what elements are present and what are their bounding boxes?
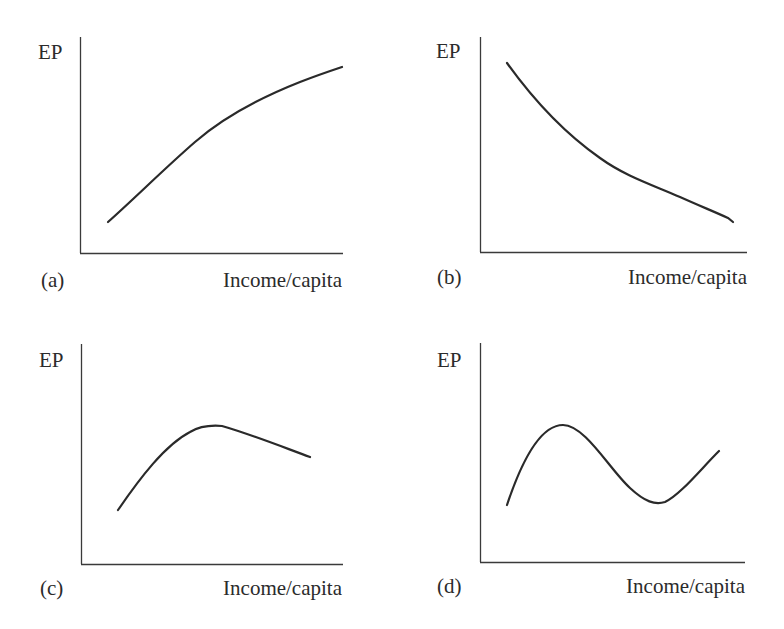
panel-a-axes	[80, 37, 343, 254]
panel-a-xlabel: Income/capita	[180, 270, 342, 291]
figure-canvas	[0, 0, 784, 629]
panel-a-ylabel: EP	[38, 42, 63, 63]
panel-d-axes	[480, 343, 745, 563]
panel-c-tag: (c)	[40, 578, 63, 599]
panel-b-ylabel: EP	[436, 41, 461, 62]
panel-a-curve	[108, 67, 342, 222]
panel-c-ylabel: EP	[39, 350, 64, 371]
panel-d-tag: (d)	[437, 576, 462, 597]
panel-a-tag: (a)	[41, 270, 64, 291]
panel-b-curve	[507, 63, 733, 222]
panel-b-xlabel: Income/capita	[582, 267, 747, 288]
panel-c-curve	[118, 426, 310, 510]
panel-d-curve	[507, 425, 719, 505]
panel-c-xlabel: Income/capita	[180, 578, 342, 599]
panel-b-tag: (b)	[437, 267, 462, 288]
panel-d-ylabel: EP	[437, 350, 462, 371]
panel-d-xlabel: Income/capita	[580, 576, 745, 597]
panel-b-axes	[480, 37, 747, 253]
